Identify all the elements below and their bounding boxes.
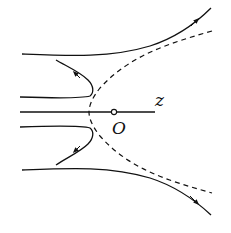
origin-label: O	[112, 118, 126, 138]
axis-label-z: z	[154, 90, 165, 110]
diagram-canvas: z O	[0, 0, 231, 233]
field-line-upper-inner	[20, 60, 93, 98]
field-line-lower-outer	[22, 168, 211, 215]
origin-point	[111, 109, 116, 114]
field-line-upper-outer	[22, 8, 211, 56]
arrow-icon	[190, 196, 197, 203]
arrow-icon	[191, 20, 197, 26]
field-line-lower-inner	[20, 126, 93, 165]
